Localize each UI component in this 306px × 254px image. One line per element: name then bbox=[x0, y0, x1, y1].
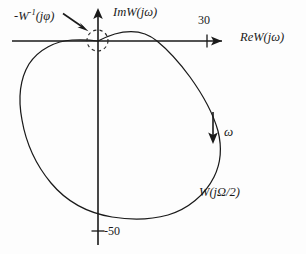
imaginary-axis-label: ImW(jω) bbox=[113, 6, 157, 19]
describing-function-exponent: -1 bbox=[29, 7, 36, 17]
nyquist-diagram-figure: -W-1(jφ) ImW(jω) ReW(jω) 30 -50 ω W(jΩ/2… bbox=[0, 0, 306, 254]
describing-function-argument: (jφ) bbox=[36, 9, 55, 23]
omega-direction-arrow bbox=[208, 112, 218, 144]
imag-axis-tick-label-minus-50: -50 bbox=[104, 225, 120, 237]
real-axis-label: ReW(jω) bbox=[240, 31, 284, 44]
imag-axis-group bbox=[92, 8, 105, 245]
nyquist-locus-curve bbox=[20, 32, 220, 220]
pointer-arrow-shaft bbox=[63, 14, 84, 29]
describing-function-base: -W bbox=[14, 9, 29, 23]
real-axis-group bbox=[12, 35, 222, 48]
describing-function-pointer-arrow bbox=[63, 14, 89, 32]
describing-function-label: -W-1(jφ) bbox=[14, 8, 54, 23]
real-axis-tick-label-30: 30 bbox=[198, 14, 210, 26]
omega-label: ω bbox=[224, 125, 233, 138]
nyquist-curve-label: W(jΩ/2) bbox=[199, 186, 240, 199]
